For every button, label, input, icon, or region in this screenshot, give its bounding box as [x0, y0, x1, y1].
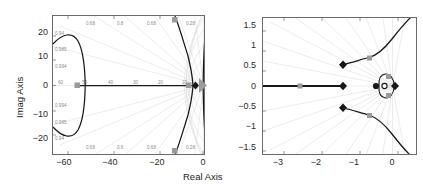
- svg-text:20: 20: [158, 80, 164, 85]
- svg-text:0.994: 0.994: [55, 64, 67, 69]
- svg-text:0.8: 0.8: [117, 145, 124, 150]
- svg-text:0.985: 0.985: [55, 47, 67, 52]
- svg-text:0.8: 0.8: [117, 21, 124, 26]
- zero-marker: [382, 83, 387, 88]
- svg-text:0.985: 0.985: [55, 120, 67, 125]
- svg-text:0.994: 0.994: [55, 103, 67, 108]
- left-plot-panel: Imag Axis 20 10 0 −10 −20 −60 −40 −20 0: [0, 0, 212, 187]
- pole-marker: [373, 83, 379, 89]
- right-plot-panel: 1.5 1 0.5 0 −0.5 −1 −1.5 −3 −2 −1 0: [212, 0, 423, 187]
- svg-text:0.28: 0.28: [186, 145, 195, 150]
- left-plot-canvas: 0.94 0.985 0.994 0.994 0.985 0.94 0.68 0…: [0, 0, 212, 187]
- svg-text:0.94: 0.94: [55, 31, 64, 36]
- svg-text:0.68: 0.68: [147, 145, 156, 150]
- svg-text:0.28: 0.28: [186, 21, 195, 26]
- svg-text:0.68: 0.68: [86, 145, 95, 150]
- svg-text:30: 30: [133, 80, 139, 85]
- left-pole-markers: [192, 78, 207, 93]
- svg-text:0.94: 0.94: [55, 136, 64, 141]
- svg-text:60: 60: [58, 80, 64, 85]
- svg-text:0.68: 0.68: [86, 21, 95, 26]
- svg-text:40: 40: [108, 80, 114, 85]
- right-plot-canvas: [212, 0, 423, 187]
- svg-text:0.68: 0.68: [147, 21, 156, 26]
